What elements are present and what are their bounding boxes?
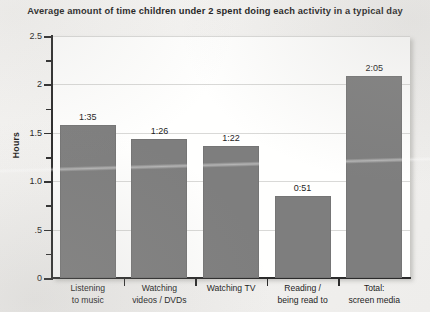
y-tick-label: .5: [2, 225, 42, 235]
y-tick-minor: [46, 60, 52, 62]
chart-figure: Average amount of time children under 2 …: [0, 0, 430, 312]
y-tick-major: [44, 230, 52, 232]
y-tick-major: [44, 181, 52, 183]
bar[interactable]: [275, 196, 331, 278]
x-axis-category-label: Watchingvideos / DVDs: [132, 283, 186, 306]
x-axis-label-line: being read to: [278, 295, 328, 307]
y-axis-title: Hours: [11, 115, 21, 175]
page-title: Average amount of time children under 2 …: [0, 6, 430, 16]
y-tick-minor: [46, 157, 52, 159]
bar-value-label: 2:05: [365, 63, 383, 73]
bar-value-label: 1:22: [222, 133, 240, 143]
y-tick-major: [44, 84, 52, 86]
bar[interactable]: [203, 146, 259, 278]
y-tick-major: [44, 278, 52, 280]
bar-value-label: 0:51: [294, 183, 312, 193]
gridline: [52, 36, 410, 37]
bar[interactable]: [131, 139, 187, 278]
x-axis-category-label: Watching TV: [207, 283, 256, 295]
x-axis-category-label: Reading /being read to: [278, 283, 328, 306]
x-axis-category-label: Listeningto music: [71, 283, 105, 306]
bar-value-label: 1:35: [79, 112, 97, 122]
x-axis-label-line: Total:: [348, 283, 400, 295]
y-tick-major: [44, 133, 52, 135]
y-tick-major: [44, 36, 52, 38]
bar[interactable]: [346, 76, 402, 278]
x-axis-label-line: Reading /: [278, 283, 328, 295]
x-axis-separator-tick: [195, 279, 197, 286]
x-axis-category-label: Total:screen media: [348, 283, 400, 306]
x-axis-label-line: Listening: [71, 283, 105, 295]
y-tick-minor: [46, 254, 52, 256]
bar-value-label: 1:26: [151, 126, 169, 136]
y-tick-minor: [46, 205, 52, 207]
y-tick-label: 1.0: [2, 176, 42, 186]
x-axis-label-line: Watching TV: [207, 283, 256, 295]
x-axis-label-line: to music: [71, 295, 105, 307]
y-tick-label: 2: [2, 79, 42, 89]
x-axis-label-line: Watching: [132, 283, 186, 295]
x-axis-label-line: screen media: [348, 295, 400, 307]
x-axis-separator-tick: [267, 279, 269, 286]
y-tick-label: 1.5: [2, 128, 42, 138]
y-tick-label: 0: [2, 273, 42, 283]
x-axis-separator-tick: [338, 279, 340, 286]
y-tick-minor: [46, 109, 52, 111]
y-tick-label: 2.5: [2, 31, 42, 41]
bar[interactable]: [60, 125, 116, 278]
x-axis-label-line: videos / DVDs: [132, 295, 186, 307]
x-axis-separator-tick: [124, 279, 126, 286]
